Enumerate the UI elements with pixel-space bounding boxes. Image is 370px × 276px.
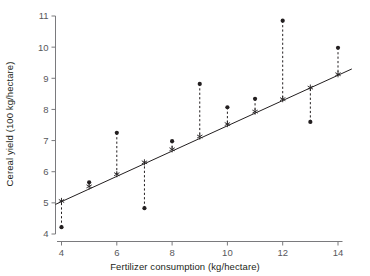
x-axis-tick-label: 6	[114, 247, 119, 258]
observed-point-marker	[198, 82, 202, 86]
x-axis-tick-label: 14	[333, 247, 344, 258]
observed-point-marker	[225, 105, 229, 109]
observed-point-marker	[170, 139, 174, 143]
observed-point-marker	[281, 19, 285, 23]
x-axis-tick-label: 8	[169, 247, 174, 258]
observed-point-marker	[253, 97, 257, 101]
x-axis-tick-label: 4	[59, 247, 64, 258]
y-axis-tick-label: 4	[43, 228, 48, 239]
y-axis-tick-label: 5	[43, 197, 48, 208]
y-axis-tick-label: 10	[38, 42, 49, 53]
chart-figure: 4567891011 468101214 Fertilizer consumpt…	[0, 0, 370, 276]
y-axis-tick-label: 11	[39, 10, 49, 21]
x-axis-tick-label: 12	[277, 247, 288, 258]
x-axis-tick-label: 10	[222, 247, 233, 258]
observed-point-marker	[115, 131, 119, 135]
observed-point-marker	[336, 46, 340, 50]
y-axis-tick-label: 7	[43, 135, 48, 146]
observed-point-marker	[87, 180, 91, 184]
observed-point-marker	[308, 120, 312, 124]
y-axis-tick-label: 8	[43, 104, 48, 115]
y-axis-tick-label: 9	[43, 73, 48, 84]
x-axis-title: Fertilizer consumption (kg/hectare)	[110, 261, 260, 272]
y-axis-title: Cereal yield (100 kg/hectare)	[4, 62, 15, 187]
y-axis-tick-label: 6	[43, 166, 48, 177]
observed-point-marker	[59, 225, 63, 229]
observed-point-marker	[142, 206, 146, 210]
scatter-plot-canvas: 4567891011 468101214 Fertilizer consumpt…	[0, 0, 370, 276]
